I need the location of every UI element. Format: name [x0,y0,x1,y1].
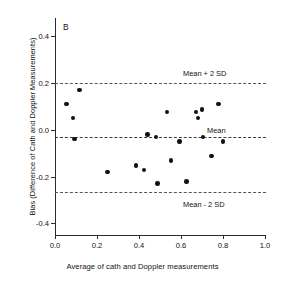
data-point [155,181,160,186]
data-point [201,135,206,140]
x-tick-mark [181,235,182,239]
y-axis-title: Bias (Difference of Cath and Doppler Mea… [28,22,37,232]
data-point [209,154,214,159]
data-point [105,170,110,175]
y-tick-mark [51,130,55,131]
y-tick-mark [51,223,55,224]
x-tick-mark [139,235,140,239]
y-tick-label: 0.2 [38,79,49,88]
x-tick-label: 0.6 [176,241,187,250]
lower-limit-of-agreement [55,192,266,193]
x-tick-label: 1.0 [260,241,271,250]
x-tick-mark [223,235,224,239]
data-point [177,139,182,144]
mean-bias [55,137,266,138]
x-tick-mark [97,235,98,239]
data-point [221,139,226,144]
x-tick-mark [55,235,56,239]
y-tick-label: -0.2 [36,172,49,181]
data-point [194,110,199,115]
data-point [134,163,139,168]
x-axis-line [55,235,266,236]
data-point [145,132,150,137]
x-axis-title: Average of cath and Doppler measurements [0,262,285,271]
x-tick-mark [265,235,266,239]
x-tick-label: 0.4 [134,241,145,250]
upper-limit-of-agreement [55,83,266,84]
data-point [196,116,201,121]
data-point [71,116,76,121]
plot-area: 0.40.20.0-0.2-0.4 0.00.20.40.60.81.0 Mea… [55,20,265,235]
data-point [77,88,82,93]
x-tick-label: 0.2 [92,241,103,250]
y-tick-mark [51,36,55,37]
x-tick-label: 0.0 [50,241,61,250]
data-point [200,107,205,112]
data-point [216,102,221,107]
data-point [169,158,174,163]
data-point [154,135,159,140]
bland-altman-figure: Bias (Difference of Cath and Doppler Mea… [0,0,285,287]
y-tick-label: 0.4 [38,32,49,41]
upper-limit-of-agreement-label: Mean + 2 SD [183,69,226,78]
y-tick-mark [51,177,55,178]
mean-bias-label: Mean [207,126,226,135]
data-point [165,110,170,115]
data-point [64,102,69,107]
data-point [142,168,147,173]
y-axis-line [55,18,56,235]
y-tick-label: 0.0 [38,125,49,134]
x-tick-label: 0.8 [218,241,229,250]
data-point [72,137,77,142]
y-tick-label: -0.4 [36,219,49,228]
lower-limit-of-agreement-label: Mean - 2 SD [183,200,225,209]
data-point [184,179,189,184]
